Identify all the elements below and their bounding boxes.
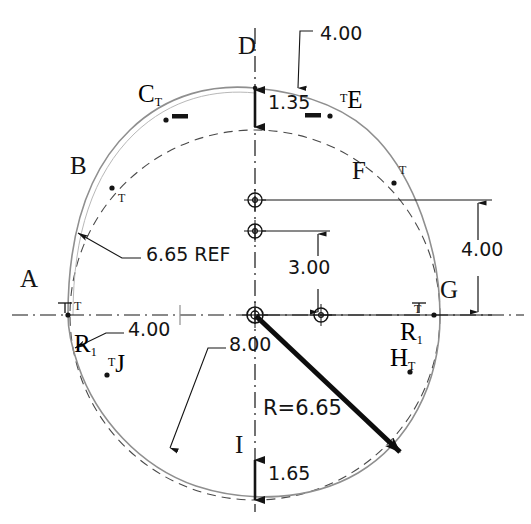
datum-tick-label-B: T [118, 192, 125, 204]
dimension-ref-radius: 6.65 REF [146, 245, 230, 264]
radius-label-R1-left: R1 [74, 330, 97, 360]
point-label-E-base: E [347, 86, 362, 113]
profile-point-D [253, 86, 257, 90]
point-label-C: CT [138, 80, 162, 110]
point-label-A: A [20, 266, 38, 291]
profile-point-C [163, 117, 168, 122]
center-marker-hole-mid [244, 220, 266, 242]
center-marker-hole-upper [244, 189, 266, 211]
datum-tick-label-F: T [399, 164, 406, 176]
cam-profile-echo [73, 92, 255, 315]
engineering-drawing-canvas: A T B T CT D TE F T G T HT I TJ R1 R1 4.… [0, 0, 531, 524]
datum-tick-label-A: T [74, 300, 81, 312]
profile-point-E [327, 113, 332, 118]
point-label-J-base: J [115, 350, 125, 377]
radius-label-R1-left-base: R [74, 330, 91, 357]
dimension-top-gap: 1.35 [268, 93, 310, 112]
dimension-radius-callout: R=6.65 [263, 398, 342, 419]
dimension-lower-leader: 8.00 [229, 335, 271, 354]
profile-point-A [65, 312, 70, 317]
drawing-vector-layer [0, 0, 531, 524]
center-marker-hole-right [310, 304, 332, 326]
point-label-B: B [70, 153, 87, 178]
dimension-right-vertical: 4.00 [461, 240, 503, 259]
dimension-bottom-gap: 1.65 [268, 464, 310, 483]
datum-tick-marks [58, 303, 426, 313]
tolerance-mark-right [305, 113, 321, 118]
dimension-top-offset: 4.00 [320, 24, 362, 43]
radius-label-R1-left-sub: 1 [91, 345, 97, 359]
point-label-E: TE [340, 86, 363, 114]
point-label-G: G [440, 277, 458, 302]
point-label-F: F [352, 158, 366, 183]
radius-label-R1-right: R1 [400, 318, 423, 348]
point-label-H-sub: T [408, 359, 415, 373]
point-label-C-base: C [138, 80, 155, 107]
point-label-J: TJ [108, 350, 125, 378]
point-label-H: HT [390, 344, 415, 374]
leader-lower-8 [170, 348, 226, 448]
radius-label-R1-right-base: R [400, 318, 417, 345]
point-label-I: I [235, 432, 243, 457]
datum-tick-label-G: T [414, 303, 421, 315]
profile-point-B [109, 185, 114, 190]
radius-arrow-line [256, 316, 400, 452]
profile-point-G [431, 312, 436, 317]
radius-label-R1-right-sub: 1 [417, 333, 423, 347]
tolerance-mark-left [172, 114, 188, 119]
point-label-D: D [238, 33, 256, 58]
dimension-mid-vertical: 3.00 [288, 258, 330, 277]
dimension-left-offset: 4.00 [128, 320, 170, 339]
point-label-C-sub: T [155, 95, 162, 109]
leader-top-4 [298, 31, 313, 88]
profile-point-F [391, 180, 396, 185]
